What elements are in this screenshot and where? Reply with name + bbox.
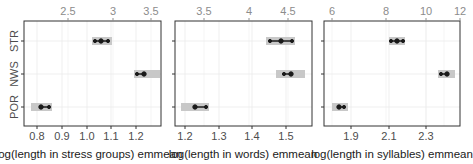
x-tick-label: 1.2 [128,130,143,142]
x-tick-label: 1.2 [177,130,192,142]
x-tick-label: 1.4 [244,130,259,142]
top-tick-label: 4 [246,5,252,17]
top-tick-label: 8 [383,5,389,17]
x-tick-label: 1.1 [103,130,118,142]
panel-stress-groups: STR NWS POR 2.5 3 3.5 0.8 0.9 1.0 1.1 1.… [0,5,182,160]
x-tick-label: 1.3 [211,130,226,142]
y-label-por: POR [8,95,20,119]
x-tick-label: 1.0 [79,130,94,142]
x-axis-title: log(length in syllables) emmean [311,148,473,160]
y-label-str: STR [8,30,20,52]
x-tick-label: 0.8 [29,130,44,142]
x-axis-title: log(length in words) emmean [169,148,317,160]
emmeans-forest-chart: STR NWS POR 2.5 3 3.5 0.8 0.9 1.0 1.1 1.… [0,0,473,164]
top-tick-label: 12 [454,5,466,17]
x-tick-label: 1.5 [278,130,293,142]
x-tick-label: 1.9 [343,130,358,142]
panel-words: 3.5 4 4.5 1.2 1.3 1.4 1.5 log(length in … [169,5,317,160]
panel-syllables: 6 8 10 12 1.9 2.1 2.3 log(length in syll… [311,5,473,160]
x-tick-label: 2.1 [381,130,396,142]
top-tick-label: 3.5 [196,5,211,17]
top-tick-label: 3 [110,5,116,17]
y-label-nws: NWS [8,61,20,87]
top-tick-label: 6 [329,5,335,17]
x-tick-label: 2.3 [418,130,433,142]
x-axis-title: log(length in stress groups) emmean [0,148,182,160]
top-tick-label: 3.5 [143,5,158,17]
x-tick-label: 0.9 [54,130,69,142]
top-tick-label: 10 [420,5,432,17]
top-tick-label: 4.5 [280,5,295,17]
top-tick-label: 2.5 [60,5,75,17]
